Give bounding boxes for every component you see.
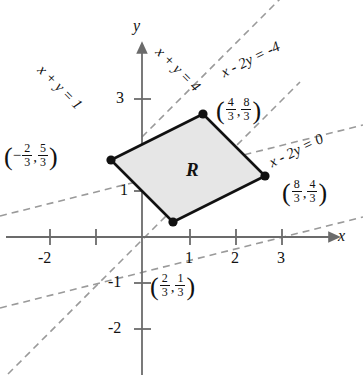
vertex-dot-left [106,155,115,164]
vertex-dot-top [198,109,207,118]
y-tick-label--1: -1 [108,274,121,290]
comma: , [33,149,37,165]
paren-open: ( [282,178,291,207]
fraction-4-3: 43 [226,96,236,122]
comma: , [303,185,307,201]
y-axis-label: y [133,18,140,34]
fraction-4-3: 43 [307,178,317,204]
minus-sign: − [13,147,21,163]
vertex-dot-right [260,171,269,180]
fraction-8-3: 83 [241,96,251,122]
paren-close: ) [186,272,195,301]
x-axis-label: x [338,228,345,244]
vertex-label-bottom: (23,13) [150,272,195,300]
y-tick-label-3: 3 [116,90,124,106]
paren-close: ) [318,178,327,207]
paren-open: ( [216,96,225,125]
comma: , [237,103,241,119]
paren-close: ) [49,142,58,171]
fraction-2-3: 23 [22,142,32,168]
fraction-5-3: 53 [38,142,48,168]
x-tick-label-1: 1 [185,250,193,266]
vertex-label-right: (83,43) [282,178,327,206]
figure-region-r: x y -2 1 2 3 3 1 -1 -2 R x + y = 1 x + y… [0,0,363,381]
paren-open: ( [4,142,13,171]
vertex-dot-bottom [168,217,177,226]
x-tick-label-2: 2 [231,250,239,266]
region-label-r: R [186,160,199,179]
comma: , [171,279,175,295]
x-tick-label-3: 3 [277,250,285,266]
vertex-label-top: (43,83) [216,96,261,124]
vertex-label-left: (−23,53) [4,142,58,170]
figure-caption [0,371,363,381]
paren-close: ) [252,96,261,125]
x-tick-label--2: -2 [38,250,51,266]
fraction-2-3: 23 [160,272,170,298]
fraction-8-3: 83 [292,178,302,204]
fraction-1-3: 13 [175,272,185,298]
y-tick-label--2: -2 [108,320,121,336]
paren-open: ( [150,272,159,301]
y-tick-label-1: 1 [120,182,128,198]
